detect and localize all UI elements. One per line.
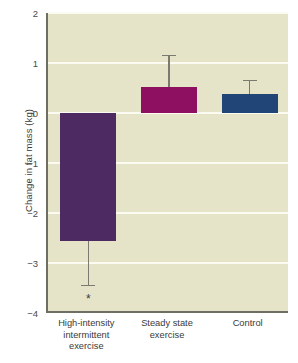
error-bar-cap (243, 80, 257, 82)
gridline (48, 12, 288, 14)
plot-area: * (46, 13, 288, 313)
bar (222, 94, 278, 113)
error-bar-stem (249, 81, 251, 95)
gridline (48, 262, 288, 264)
error-bar-stem (88, 241, 90, 286)
y-tick-label: −4 (12, 308, 38, 319)
bar (60, 113, 116, 241)
bar-chart-figure: Change in fat mass (kg) * 210−1−2−3−4 Hi… (0, 0, 298, 363)
y-tick-label: −2 (12, 208, 38, 219)
error-bar-cap (162, 55, 176, 57)
y-tick-label: 1 (12, 58, 38, 69)
y-tick-label: 2 (12, 8, 38, 19)
y-tick-label: −3 (12, 258, 38, 269)
x-axis-category-labels: High-intensity intermittent exerciseStea… (46, 318, 288, 363)
error-bar-cap (81, 285, 95, 287)
x-category-label: Control (199, 318, 296, 330)
bar (141, 87, 197, 113)
y-tick-label: 0 (12, 108, 38, 119)
significance-marker: * (86, 296, 91, 302)
y-tick-label: −1 (12, 158, 38, 169)
error-bar-stem (168, 56, 170, 88)
